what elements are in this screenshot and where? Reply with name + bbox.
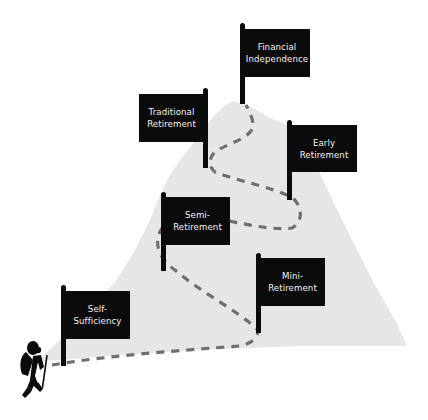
flag-semi-retirement: Semi- Retirement: [165, 197, 230, 245]
milestone-label-line2: Retirement: [173, 221, 222, 233]
diagram-canvas: Financial Independence Traditional Retir…: [0, 0, 428, 420]
milestone-label-line1: Financial: [246, 41, 308, 53]
milestone-label-line2: Retirement: [147, 118, 196, 130]
flag-financial-independence: Financial Independence: [244, 29, 310, 77]
flag-mini-retirement: Mini- Retirement: [260, 258, 325, 306]
flag-early-retirement: Early Retirement: [291, 125, 357, 172]
milestone-label-line2: Sufficiency: [73, 315, 121, 327]
milestone-label-line1: Mini-: [268, 270, 317, 282]
flag-self-sufficiency: Self- Sufficiency: [65, 291, 130, 339]
milestone-label-line1: Self-: [73, 303, 121, 315]
hiker-icon: [20, 341, 47, 398]
milestone-label-line2: Retirement: [268, 282, 317, 294]
milestone-label-line1: Early: [300, 137, 349, 149]
milestone-label-line1: Semi-: [173, 209, 222, 221]
milestone-label-line1: Traditional: [147, 106, 196, 118]
milestone-label-line2: Retirement: [300, 149, 349, 161]
flag-traditional-retirement: Traditional Retirement: [139, 94, 204, 142]
milestone-label-line2: Independence: [246, 53, 308, 65]
